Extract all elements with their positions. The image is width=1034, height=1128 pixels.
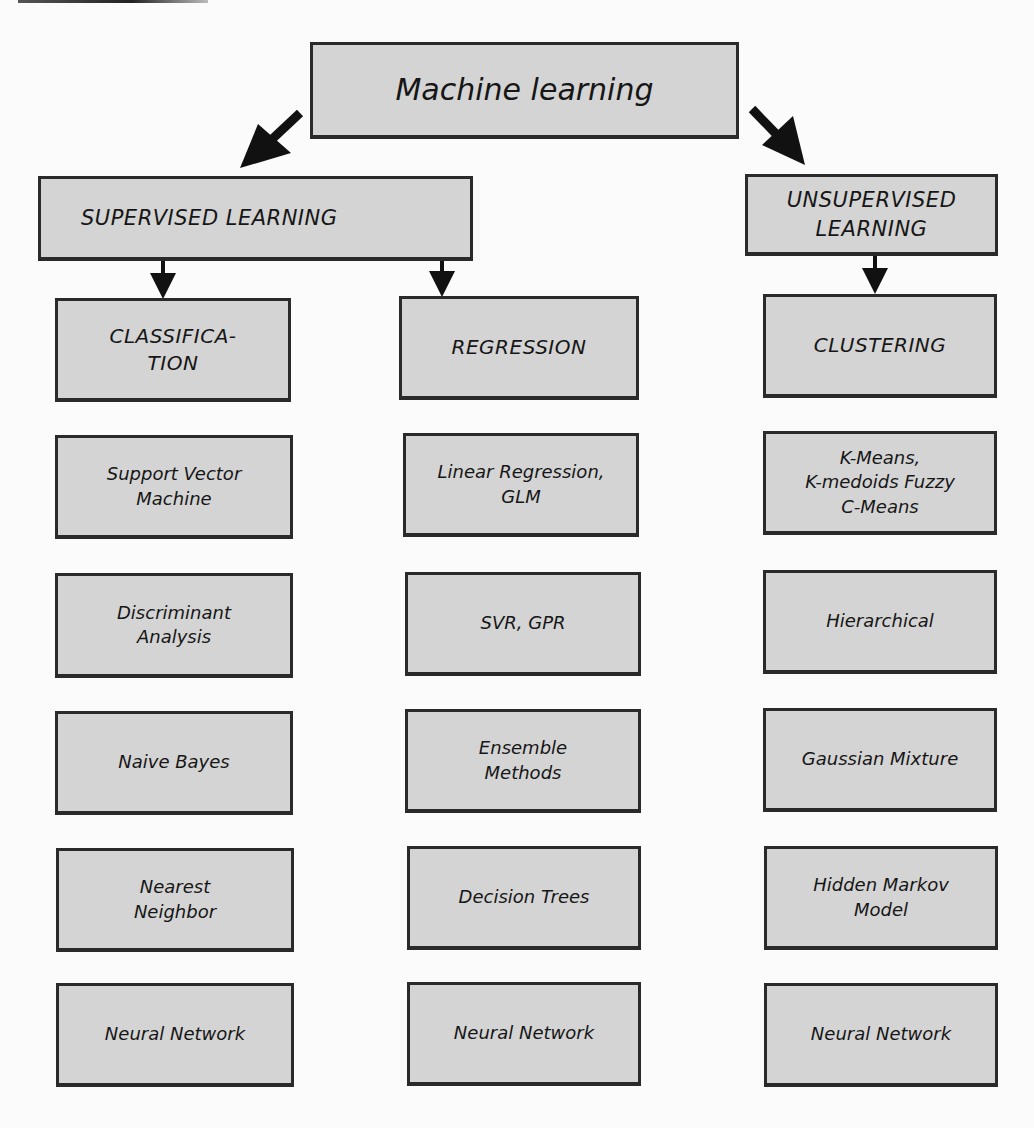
classification-label: CLASSIFICA- TION — [109, 323, 236, 377]
node-regression: REGRESSION — [399, 296, 639, 400]
root-node-machine-learning: Machine learning — [310, 42, 739, 139]
arrow-root-to-supervised-icon — [240, 113, 300, 168]
method-box: Nearest Neighbor — [56, 848, 294, 952]
unsupervised-label: UNSUPERVISED LEARNING — [787, 186, 957, 243]
root-label: Machine learning — [395, 70, 653, 111]
method-label: Hierarchical — [826, 609, 934, 633]
method-box: Decision Trees — [407, 846, 641, 950]
node-unsupervised-learning: UNSUPERVISED LEARNING — [745, 174, 998, 256]
node-supervised-learning: SUPERVISED LEARNING — [38, 176, 473, 261]
method-box: Hidden Markov Model — [764, 846, 998, 950]
arrow-supervised-to-regression-icon — [429, 256, 455, 297]
method-label: Naive Bayes — [118, 750, 229, 774]
method-label: Neural Network — [105, 1022, 245, 1046]
method-label: Ensemble Methods — [479, 736, 567, 785]
method-label: Gaussian Mixture — [802, 747, 958, 771]
arrow-supervised-to-classification-icon — [150, 258, 176, 299]
method-label: Hidden Markov Model — [813, 873, 949, 922]
method-label: Decision Trees — [459, 885, 590, 909]
supervised-label: SUPERVISED LEARNING — [81, 204, 338, 232]
method-box: Discriminant Analysis — [55, 573, 293, 678]
regression-label: REGRESSION — [452, 334, 587, 361]
method-box: Naive Bayes — [55, 711, 293, 815]
connector-arrows — [0, 0, 1034, 1128]
node-classification: CLASSIFICA- TION — [55, 298, 291, 402]
method-box: Gaussian Mixture — [763, 708, 997, 812]
method-label: Support Vector Machine — [107, 462, 242, 511]
method-box: Neural Network — [56, 983, 294, 1087]
method-label: Neural Network — [811, 1022, 951, 1046]
method-box: Neural Network — [407, 982, 641, 1086]
method-label: Discriminant Analysis — [117, 601, 231, 650]
method-box: SVR, GPR — [405, 572, 641, 676]
method-box: Linear Regression, GLM — [403, 433, 639, 537]
method-box: Support Vector Machine — [55, 435, 293, 539]
method-label: Neural Network — [454, 1021, 594, 1045]
clustering-label: CLUSTERING — [814, 332, 947, 359]
method-box: Hierarchical — [763, 570, 997, 674]
method-box: K-Means, K-medoids Fuzzy C-Means — [763, 431, 997, 535]
arrow-root-to-unsupervised-icon — [752, 109, 805, 165]
node-clustering: CLUSTERING — [763, 294, 997, 398]
method-box: Neural Network — [764, 983, 998, 1087]
method-label: Linear Regression, GLM — [437, 460, 604, 509]
method-box: Ensemble Methods — [405, 709, 641, 813]
method-label: Nearest Neighbor — [134, 875, 216, 924]
arrow-unsupervised-to-clustering-icon — [862, 253, 888, 294]
method-label: K-Means, K-medoids Fuzzy C-Means — [805, 446, 955, 519]
method-label: SVR, GPR — [481, 611, 566, 635]
